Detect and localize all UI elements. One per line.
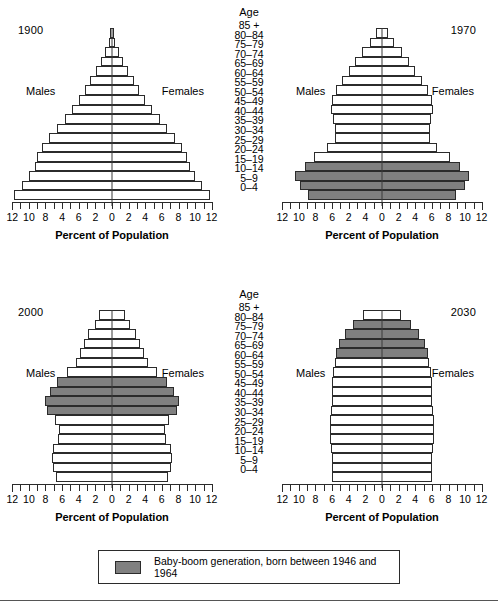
x-axis-tick (407, 484, 408, 491)
bar-male (47, 406, 113, 416)
x-axis-tick (390, 484, 391, 491)
age-heading: Age (209, 288, 289, 300)
x-axis-tick (62, 484, 63, 491)
x-axis-tick (349, 202, 350, 209)
x-axis-tick (162, 484, 163, 491)
x-axis-tick (365, 202, 366, 209)
bar-male (53, 463, 113, 473)
x-tick-label: 12 (274, 211, 291, 223)
x-tick-label: 10 (291, 493, 308, 505)
x-tick-label: 2 (340, 211, 357, 223)
pyramid-plot (282, 28, 482, 200)
bar-male (57, 377, 112, 387)
bar-female (112, 406, 177, 416)
x-axis-tick (187, 484, 188, 491)
age-group-label: 0–4 (209, 465, 289, 475)
x-axis-tick (449, 484, 450, 491)
x-tick-label: 10 (457, 493, 474, 505)
bar-female (112, 95, 145, 105)
bar-male (67, 367, 112, 377)
x-axis-tick (315, 484, 316, 491)
x-axis-tick (195, 484, 196, 491)
bar-male (331, 406, 383, 416)
bar-male (80, 348, 111, 358)
bar-female (113, 463, 171, 473)
bar-female (112, 114, 160, 124)
center-axis-line (382, 28, 383, 206)
x-axis-tick-labels: 12108462024681012 (4, 211, 220, 223)
bar-male (336, 85, 382, 95)
x-tick-label: 6 (423, 211, 440, 223)
bar-female (382, 152, 450, 162)
x-tick-label: 4 (407, 211, 424, 223)
bar-female (383, 463, 432, 473)
bar-male (349, 66, 382, 76)
x-axis (12, 484, 212, 492)
bar-female (112, 396, 179, 406)
x-axis-tick (154, 484, 155, 491)
x-axis-tick (179, 202, 180, 209)
x-axis-tick (299, 484, 300, 491)
x-tick-label: 4 (137, 493, 154, 505)
bar-female (112, 152, 187, 162)
x-axis-tick (95, 484, 96, 491)
panel-1900: 1900MalesFemales12108462024681012Percent… (4, 6, 220, 256)
bar-female (382, 406, 433, 416)
x-axis-tick (87, 484, 88, 491)
age-group-list-bottom: 85 +80–8475–7970–7465–6960–6455–5950–544… (209, 303, 289, 475)
x-axis-tick (162, 202, 163, 209)
bar-female (112, 190, 210, 200)
x-axis-tick (145, 484, 146, 491)
x-tick-label: 4 (54, 211, 71, 223)
bar-female (383, 434, 434, 444)
bar-female (113, 453, 172, 463)
x-axis-tick (324, 484, 325, 491)
x-axis-tick (382, 484, 383, 491)
x-axis-tick (112, 202, 113, 209)
bar-female (382, 162, 460, 172)
x-tick-label: 6 (153, 493, 170, 505)
x-axis-tick (432, 484, 433, 491)
bar-male (96, 66, 112, 76)
x-axis-tick (449, 202, 450, 209)
x-axis (12, 202, 212, 210)
bar-male (84, 339, 111, 349)
x-axis-tick (307, 202, 308, 209)
x-axis-tick (12, 484, 13, 492)
bar-male (335, 133, 383, 143)
x-axis-tick (145, 202, 146, 209)
x-axis-tick (282, 202, 283, 210)
bar-male (95, 320, 110, 330)
bar-female (111, 348, 144, 358)
bar-male (85, 85, 112, 95)
x-axis-tick (212, 202, 213, 210)
x-axis-tick (307, 484, 308, 491)
x-axis-tick (299, 202, 300, 209)
bar-male (314, 152, 382, 162)
bar-female (113, 444, 171, 454)
x-axis (282, 484, 482, 492)
bar-male (49, 133, 112, 143)
bar-male (331, 444, 383, 454)
x-axis-tick (170, 202, 171, 209)
legend-box: Baby-boom generation, born between 1946 … (98, 550, 400, 584)
x-tick-label: 12 (203, 211, 220, 223)
bar-male (295, 171, 382, 181)
x-axis-tick (432, 202, 433, 209)
bar-male (308, 190, 382, 200)
x-axis-tick (415, 484, 416, 491)
bar-female (382, 114, 431, 124)
bar-male (342, 76, 382, 86)
bar-male (330, 425, 383, 435)
bar-female (112, 57, 123, 67)
bar-female (382, 95, 432, 105)
x-axis-tick (365, 484, 366, 491)
bar-female (112, 76, 134, 86)
bar-male (335, 124, 383, 134)
bar-female (113, 434, 166, 444)
x-tick-label: 0 (374, 211, 391, 223)
bar-female (112, 162, 190, 172)
center-axis-line (112, 310, 113, 488)
bar-female (113, 425, 166, 435)
x-axis-tick (324, 202, 325, 209)
